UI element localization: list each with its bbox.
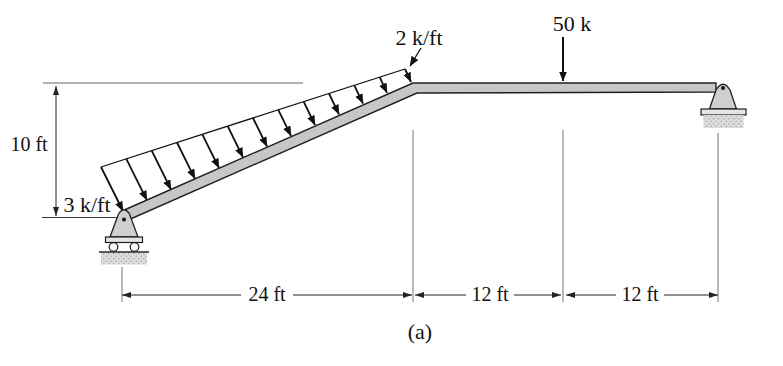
distributed-load-arrow [253, 118, 267, 147]
distributed-load-arrow [202, 134, 219, 168]
span2-label: 12 ft [471, 283, 509, 305]
extension-lines [122, 130, 718, 302]
roller-ground-hatch [101, 253, 147, 265]
figure-caption: (a) [408, 319, 432, 344]
beam-diagram-canvas: 10 ft 2 k/ft 3 k/ft 50 k [0, 0, 783, 366]
distributed-load-arrow [304, 102, 315, 125]
distributed-load-arrow [152, 151, 171, 190]
span1-label: 24 ft [248, 283, 286, 305]
distributed-load-start-label: 3 k/ft [63, 192, 110, 217]
distributed-load-arrow [177, 143, 195, 179]
distributed-load-arrow [329, 94, 339, 115]
pin-plate [701, 109, 746, 115]
beam-load-figure: 10 ft 2 k/ft 3 k/ft 50 k [0, 0, 783, 366]
point-load-label: 50 k [553, 11, 592, 36]
distributed-load-arrow [228, 126, 243, 157]
distributed-load-arrow [405, 69, 411, 82]
distributed-load-arrow [380, 77, 387, 93]
roller-wheel-icon [130, 243, 139, 252]
distributed-load-end-label: 2 k/ft [395, 25, 442, 50]
distributed-load [101, 69, 411, 211]
pin-ground-hatch [704, 115, 744, 128]
pin-dot-icon [721, 86, 725, 90]
roller-wheel-icon [109, 243, 118, 252]
point-load: 50 k [553, 11, 592, 81]
distributed-load-end-leader-arrow [410, 48, 421, 66]
height-dimension: 10 ft [10, 86, 56, 216]
roller-pin-dot-icon [122, 218, 126, 222]
span3-label: 12 ft [621, 283, 659, 305]
distributed-load-arrows [101, 69, 411, 211]
distributed-load-arrow [278, 110, 291, 136]
distributed-load-arrow [126, 159, 147, 201]
height-dim-label: 10 ft [10, 133, 48, 155]
roller-plate [106, 237, 143, 243]
span-dimensions: 24 ft 12 ft 12 ft [122, 283, 718, 305]
distributed-load-end-callout: 2 k/ft [395, 25, 442, 66]
distributed-load-arrow [354, 85, 363, 103]
